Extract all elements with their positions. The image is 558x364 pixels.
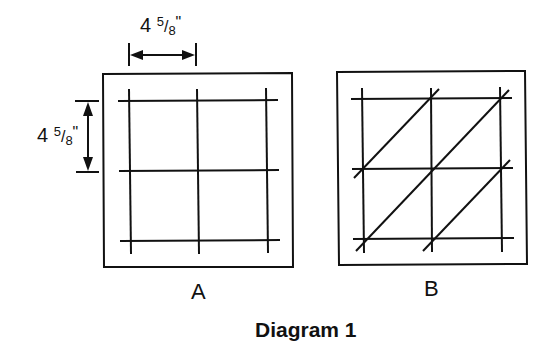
dim-h-whole: 4 [140,14,151,36]
dim-v-num: 5 [54,124,61,139]
dim-v-den: 8 [65,133,72,148]
dimension-vertical-label: 4 5/8" [37,124,78,147]
dimension-horizontal-label: 4 5/8" [140,14,181,37]
dimension-horizontal [129,43,196,66]
dim-v-whole: 4 [37,124,48,146]
diagram-caption: Diagram 1 [255,318,357,342]
panel-b-diagonal-1 [354,89,439,178]
panel-a [103,73,293,267]
panel-a-vline-3 [266,88,268,253]
dimension-vertical [75,101,99,172]
dim-v-unit: " [73,124,79,141]
panel-b-hline-2 [352,168,513,169]
dim-h-den: 8 [168,23,175,38]
panel-a-vline-2 [197,89,199,254]
panel-b-label: B [424,276,439,302]
panel-a-hline-3 [120,240,280,241]
panel-a-hline-2 [119,170,279,171]
dim-h-unit: " [176,14,182,31]
panel-a-label: A [191,279,206,305]
dim-h-num: 5 [157,14,164,29]
diagram-canvas [0,0,558,364]
panel-b [337,71,527,265]
panel-a-vline-1 [129,89,131,254]
